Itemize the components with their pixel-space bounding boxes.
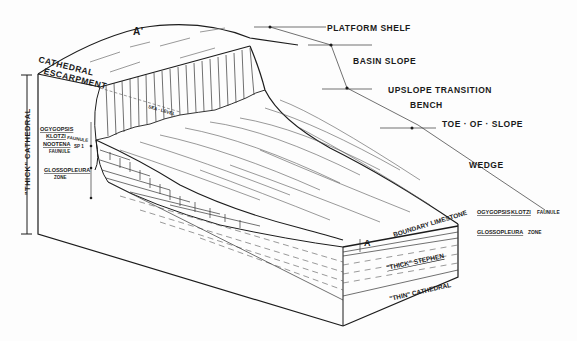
label-thick-stephen: "THICK" STEPHEN	[386, 252, 445, 271]
front-strata	[96, 140, 343, 300]
svg-text:KLOTZI: KLOTZI	[46, 133, 66, 139]
label-bench: BENCH	[410, 100, 443, 110]
block-outline	[38, 25, 458, 326]
escarpment-face	[96, 48, 265, 140]
marker-a: A	[364, 238, 371, 248]
left-zone-glossopleura: GLOSSOPLEURA ZONE	[44, 167, 90, 180]
label-upslope-transition: UPSLOPE TRANSITION	[388, 85, 492, 95]
sea-level-line	[100, 88, 180, 112]
right-zone-glossopleura: GLOSSOPLEURA ZONE	[477, 229, 542, 235]
marker-a-prime: A'	[133, 26, 144, 37]
label-thick-cathedral: "THICK" CATHEDRAL	[23, 108, 32, 195]
svg-text:ZONE: ZONE	[528, 230, 542, 235]
label-thin-cathedral: "THIN" CATHEDRAL	[389, 281, 452, 302]
diagram-canvas: A' PLATFORM SHELF BASIN SLOPE UPSLOPE TR…	[0, 0, 577, 341]
profile-leaders	[254, 26, 545, 211]
svg-text:OGYGOPSIS: OGYGOPSIS	[40, 126, 74, 132]
svg-text:SP 1: SP 1	[74, 144, 84, 149]
svg-text:FAUNULE: FAUNULE	[49, 149, 70, 154]
label-platform-shelf: PLATFORM SHELF	[327, 23, 411, 33]
left-zone-bracket	[90, 122, 93, 199]
label-wedge: WEDGE	[469, 160, 504, 170]
escarpment-label: CATHEDRAL ESCARPMENT	[35, 54, 110, 91]
geology-block-diagram: A' PLATFORM SHELF BASIN SLOPE UPSLOPE TR…	[0, 0, 577, 341]
platform-surface	[90, 28, 225, 72]
label-basin-slope: BASIN SLOPE	[353, 56, 416, 66]
svg-text:NOOTENA: NOOTENA	[43, 141, 71, 147]
label-toe-of-slope: TOE · OF · SLOPE	[442, 119, 523, 129]
svg-text:ZONE: ZONE	[54, 175, 67, 180]
right-zone-ogygopsis: OGYGOPSIS KLOTZI FAUNULE	[477, 209, 560, 215]
svg-text:OGYGOPSIS: OGYGOPSIS	[477, 209, 511, 215]
svg-text:GLOSSOPLEURA: GLOSSOPLEURA	[44, 167, 90, 173]
svg-text:KLOTZI: KLOTZI	[511, 209, 531, 215]
left-zone-nootena: NOOTENA SP 1 FAUNULE	[43, 141, 84, 154]
svg-text:FAUNULE: FAUNULE	[537, 210, 560, 215]
svg-text:GLOSSOPLEURA: GLOSSOPLEURA	[477, 229, 523, 235]
